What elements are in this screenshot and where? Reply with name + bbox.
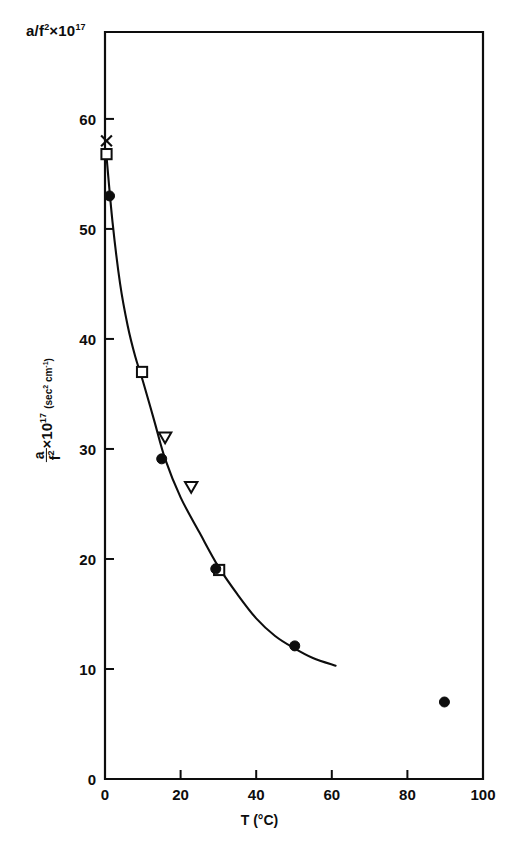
series-cross-marker xyxy=(101,136,112,147)
marker-circle-filled xyxy=(290,641,300,651)
y-tick-label: 50 xyxy=(79,220,96,237)
y-tick-label: 20 xyxy=(79,550,96,567)
x-tick-label: 100 xyxy=(470,786,495,803)
marker-circle-filled xyxy=(211,564,221,574)
x-tick-label: 0 xyxy=(101,786,109,803)
figure-container: a/f2×1017 a f2 ×1017 (sec2 cm-1) T (°C) … xyxy=(0,0,519,846)
fit-curve xyxy=(106,152,335,666)
marker-square-open xyxy=(101,149,111,159)
marker-triangle-down-open xyxy=(185,482,197,493)
marker-circle-filled xyxy=(157,454,167,464)
marker-circle-filled xyxy=(105,191,115,201)
x-tick-label: 60 xyxy=(323,786,340,803)
marker-square-open xyxy=(137,367,147,377)
x-tick-label: 40 xyxy=(248,786,265,803)
y-tick-label: 10 xyxy=(79,660,96,677)
series-filled-circle xyxy=(105,191,450,707)
marker-circle-filled xyxy=(439,697,449,707)
x-tick-label: 80 xyxy=(399,786,416,803)
y-tick-label: 40 xyxy=(79,330,96,347)
plot-area xyxy=(0,0,519,846)
x-tick-label: 20 xyxy=(172,786,189,803)
marker-cross xyxy=(101,136,112,147)
y-tick-label: 60 xyxy=(79,110,96,127)
y-tick-label: 30 xyxy=(79,440,96,457)
y-origin-label: 0 xyxy=(88,771,96,788)
series-open-square xyxy=(101,149,224,575)
plot-frame xyxy=(105,32,483,779)
